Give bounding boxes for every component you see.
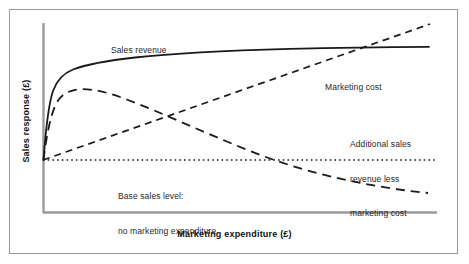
additional-sales-label-line3: marketing cost	[350, 208, 411, 220]
additional-sales-label-line1: Additional sales	[350, 139, 411, 151]
additional-sales-label: Additional sales revenue less marketing …	[350, 116, 411, 243]
marketing-cost-label: Marketing cost	[325, 82, 382, 94]
base-sales-level-label-line2: no marketing expenditure	[118, 226, 216, 238]
y-axis-title: Sales response (£)	[21, 51, 31, 191]
sales-revenue-label: Sales revenue	[111, 45, 167, 57]
base-sales-level-label-line1: Base sales level:	[118, 191, 216, 203]
base-sales-level-label: Base sales level: no marketing expenditu…	[118, 168, 216, 260]
additional-sales-label-line2: revenue less	[350, 174, 411, 186]
chart-figure: Marketing expenditure (£) Sales response…	[0, 0, 469, 264]
